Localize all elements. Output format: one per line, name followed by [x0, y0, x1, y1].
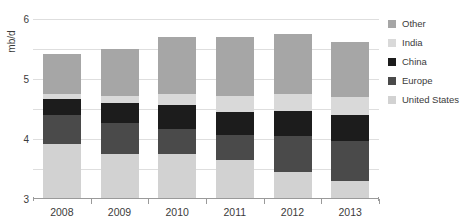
x-axis-tick — [321, 199, 322, 204]
y-axis-tick-label: 3 — [23, 194, 29, 205]
bar-segment-europe — [331, 141, 369, 182]
x-axis-tick-label: 2010 — [165, 206, 188, 218]
x-axis-tick — [379, 199, 380, 204]
gridline: 5 — [33, 49, 379, 50]
legend-item-europe[interactable]: Europe — [388, 71, 472, 90]
bar-segment-china — [331, 115, 369, 141]
bar-segment-united-states — [158, 154, 196, 199]
gridline: 6 — [33, 19, 379, 20]
bar-stack — [158, 37, 196, 199]
legend-item-china[interactable]: China — [388, 52, 472, 71]
x-axis-tick-label: 2008 — [50, 206, 73, 218]
bar-stack — [274, 34, 312, 199]
bar-segment-india — [101, 96, 139, 104]
bar-segment-china — [158, 105, 196, 129]
bar-segment-other — [43, 54, 81, 95]
legend-item-united-states[interactable]: United States — [388, 90, 472, 109]
bar-segment-china — [216, 112, 254, 135]
bar-segment-india — [331, 97, 369, 115]
legend-label: United States — [402, 94, 459, 105]
plot-area: 123456 200820092010201120122013 — [33, 19, 379, 199]
bar-segment-europe — [43, 115, 81, 144]
x-axis-tick — [206, 199, 207, 204]
x-axis-tick — [91, 199, 92, 204]
bar-segment-other — [274, 34, 312, 94]
y-axis-title: mb/d — [6, 22, 17, 62]
bar-segment-united-states — [274, 172, 312, 199]
legend-label: Other — [402, 18, 426, 29]
bar-stack — [43, 54, 81, 200]
bar-segment-europe — [216, 135, 254, 161]
legend-label: India — [402, 37, 423, 48]
gridline: 2 — [33, 139, 379, 140]
bar-stack — [331, 42, 369, 200]
bar-segment-india — [158, 94, 196, 105]
x-axis-tick — [264, 199, 265, 204]
chart-title — [10, 0, 390, 5]
bar-segment-europe — [158, 129, 196, 155]
gridline: 1 — [33, 169, 379, 170]
legend-swatch-icon — [388, 96, 396, 104]
gridline: 3 — [33, 109, 379, 110]
bar-segment-united-states — [101, 154, 139, 199]
legend-item-india[interactable]: India — [388, 33, 472, 52]
bar-segment-other — [101, 49, 139, 96]
bar-segment-india — [216, 96, 254, 113]
x-axis-tick-label: 2011 — [224, 206, 247, 218]
legend-swatch-icon — [388, 20, 396, 28]
bar-segment-other — [331, 42, 369, 98]
bar-segment-china — [274, 111, 312, 137]
chart-legend: OtherIndiaChinaEuropeUnited States — [388, 14, 472, 109]
legend-swatch-icon — [388, 77, 396, 85]
legend-label: China — [402, 56, 427, 67]
legend-label: Europe — [402, 75, 433, 86]
bar-segment-other — [216, 37, 254, 96]
bar-segment-india — [274, 94, 312, 111]
legend-swatch-icon — [388, 39, 396, 47]
y-axis-tick-label: 6 — [23, 14, 29, 25]
bar-stack — [101, 49, 139, 199]
bar-segment-united-states — [43, 144, 81, 200]
bar-segment-europe — [101, 123, 139, 155]
x-axis-tick — [148, 199, 149, 204]
gridline: 4 — [33, 79, 379, 80]
y-axis-tick-label: 5 — [23, 74, 29, 85]
bar-segment-china — [101, 103, 139, 123]
stacked-bar-chart: mb/d 123456 200820092010201120122013 Oth… — [0, 0, 472, 223]
x-axis-tick-label: 2012 — [281, 206, 304, 218]
x-axis-tick-label: 2013 — [338, 206, 361, 218]
bar-segment-other — [158, 37, 196, 94]
bar-stack — [216, 37, 254, 199]
bar-segment-united-states — [331, 181, 369, 199]
legend-item-other[interactable]: Other — [388, 14, 472, 33]
bar-segment-china — [43, 99, 81, 116]
bar-segment-europe — [274, 136, 312, 172]
legend-swatch-icon — [388, 58, 396, 66]
y-axis-tick-label: 4 — [23, 134, 29, 145]
x-axis-tick-label: 2009 — [108, 206, 131, 218]
bar-segment-united-states — [216, 160, 254, 199]
